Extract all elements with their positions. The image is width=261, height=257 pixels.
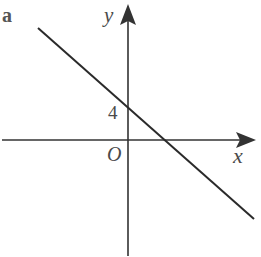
graph: [0, 0, 261, 257]
y-axis-label: y: [104, 3, 113, 28]
part-label: a: [2, 4, 12, 27]
x-axis-label: x: [233, 143, 243, 169]
graph-line: [38, 28, 254, 219]
origin-label: O: [107, 143, 121, 166]
y-intercept-label: 4: [108, 102, 118, 124]
